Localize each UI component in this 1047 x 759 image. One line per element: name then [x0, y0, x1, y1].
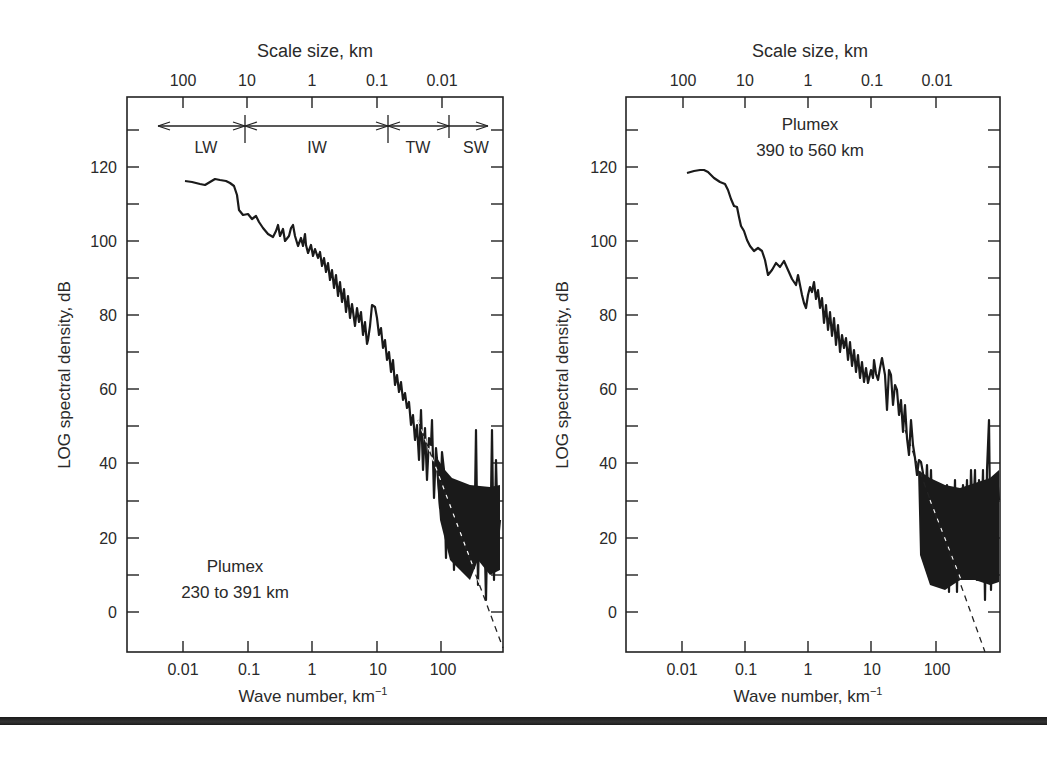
right-annotation-line1: Plumex — [782, 115, 839, 134]
left-ticks — [127, 97, 503, 652]
tick-label: 100 — [590, 233, 617, 250]
left-panel: Scale size, km 100 10 1 0.1 0.01 — [55, 41, 503, 706]
left-bottom-axis-title: Wave number, km−1 — [239, 685, 388, 706]
tick-label: 0 — [608, 604, 617, 621]
tick-label: 1 — [804, 661, 813, 678]
region-labels: LW IW TW SW — [195, 139, 490, 156]
left-y-tick-labels: 120 100 80 60 40 20 0 — [90, 159, 117, 621]
tick-label: 100 — [90, 233, 117, 250]
left-top-tick-labels: 100 10 1 0.1 0.01 — [170, 72, 458, 89]
region-label-iw: IW — [307, 139, 327, 156]
tick-label: 0.01 — [167, 661, 198, 678]
left-y-axis-title: LOG spectral density, dB — [55, 281, 74, 469]
tick-label: 100 — [430, 661, 457, 678]
tick-label: 0.01 — [666, 661, 697, 678]
right-y-tick-labels: 120 100 80 60 40 20 0 — [590, 159, 617, 621]
left-top-axis-title: Scale size, km — [257, 41, 373, 61]
tick-label: 0.1 — [366, 72, 388, 89]
right-top-tick-labels: 100 10 1 0.1 0.01 — [670, 72, 953, 89]
tick-label: 100 — [670, 72, 697, 89]
right-top-axis-title: Scale size, km — [752, 41, 868, 61]
tick-label: 0 — [108, 604, 117, 621]
tick-label: 10 — [369, 661, 387, 678]
right-noise-band — [918, 470, 999, 590]
tick-label: 1 — [308, 72, 317, 89]
tick-label: 10 — [863, 661, 881, 678]
right-annotation-line2: 390 to 560 km — [756, 141, 864, 160]
left-annotation-line1: Plumex — [207, 557, 264, 576]
tick-label: 0.1 — [861, 72, 883, 89]
region-label-lw: LW — [195, 139, 219, 156]
tick-label: 100 — [170, 72, 197, 89]
tick-label: 40 — [99, 455, 117, 472]
right-y-axis-title: LOG spectral density, dB — [553, 281, 572, 469]
left-plot-frame — [127, 97, 503, 652]
tick-label: 0.1 — [238, 661, 260, 678]
page-bottom-rule — [0, 717, 1047, 725]
tick-label: 1 — [804, 72, 813, 89]
region-label-sw: SW — [463, 139, 490, 156]
tick-label: 20 — [99, 530, 117, 547]
tick-label: 120 — [590, 159, 617, 176]
right-bottom-tick-labels: 0.01 0.1 1 10 100 — [666, 661, 950, 678]
right-bottom-axis-title: Wave number, km−1 — [734, 685, 883, 706]
figure-canvas: Scale size, km 100 10 1 0.1 0.01 — [0, 0, 1047, 759]
tick-label: 40 — [599, 455, 617, 472]
left-bottom-tick-labels: 0.01 0.1 1 10 100 — [167, 661, 456, 678]
tick-label: 0.01 — [921, 72, 952, 89]
tick-label: 120 — [90, 159, 117, 176]
tick-label: 0.1 — [735, 661, 757, 678]
tick-label: 100 — [924, 661, 951, 678]
left-noise-band — [435, 455, 500, 580]
tick-label: 10 — [238, 72, 256, 89]
tick-label: 60 — [599, 381, 617, 398]
tick-label: 1 — [308, 661, 317, 678]
tick-label: 80 — [599, 307, 617, 324]
region-label-tw: TW — [406, 139, 432, 156]
tick-label: 20 — [599, 530, 617, 547]
tick-label: 60 — [99, 381, 117, 398]
right-panel: Scale size, km 100 10 1 0.1 0.01 — [553, 41, 1000, 706]
left-annotation-line2: 230 to 391 km — [181, 583, 289, 602]
tick-label: 10 — [736, 72, 754, 89]
tick-label: 0.01 — [426, 72, 457, 89]
tick-label: 80 — [99, 307, 117, 324]
